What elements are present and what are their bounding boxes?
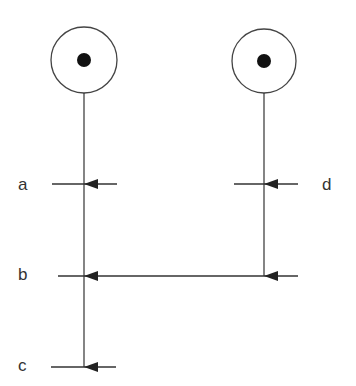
transition-label-d: d [322,176,331,193]
transition-label-c: c [18,357,27,374]
petri-net-diagram [0,0,356,386]
transition-label-b: b [18,266,27,283]
token-icon [257,54,271,68]
token-icon [77,53,91,67]
place-2 [232,29,296,93]
transition-label-a: a [18,176,27,193]
place-1 [51,27,117,93]
